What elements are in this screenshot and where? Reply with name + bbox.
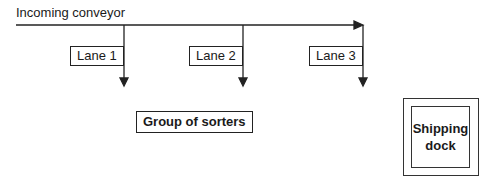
- lane-3-arrowhead: [359, 78, 367, 86]
- lane-1-arrowhead: [120, 78, 128, 86]
- lane-3-box: Lane 3: [309, 46, 363, 66]
- lane-2-box: Lane 2: [189, 46, 243, 66]
- lane-1-box: Lane 1: [70, 46, 124, 66]
- lane-2-arrowhead: [239, 78, 247, 86]
- shipping-dock-label-line1: Shipping: [413, 120, 469, 137]
- shipping-dock-label-line2: dock: [413, 137, 469, 154]
- shipping-dock-box: Shipping dock: [411, 106, 470, 168]
- conveyor-arrowhead: [354, 21, 363, 29]
- group-of-sorters-box: Group of sorters: [136, 111, 253, 133]
